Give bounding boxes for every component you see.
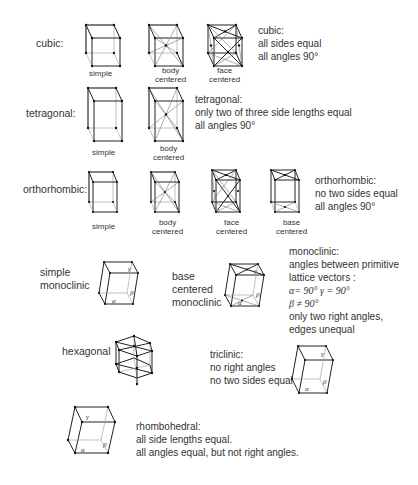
orthorhombic-face-centered-caption: facecentered [216, 218, 247, 236]
tetragonal-body-centered-cell-icon [143, 84, 193, 149]
cubic-face-centered-caption: facecentered [209, 66, 240, 84]
hexagonal-cell-icon [110, 332, 162, 392]
alpha-symbol: α [112, 297, 116, 305]
beta-symbol: β [322, 378, 327, 386]
beta-symbol: β [102, 441, 107, 449]
orthorhombic-simple-caption: simple [92, 222, 115, 231]
beta-symbol: β [129, 289, 134, 297]
orthorhombic-simple-cell-icon [83, 168, 128, 218]
beta-symbol: β [255, 291, 260, 299]
simple-monoclinic-label: simple monoclinic [40, 266, 90, 292]
alpha-symbol: α [81, 446, 85, 454]
cubic-face-centered-cell-icon [202, 20, 252, 70]
monoclinic-description: monoclinic: angles between primitive lat… [289, 245, 399, 336]
gamma-symbol: γ [128, 265, 131, 273]
cubic-simple-cell-icon [80, 20, 130, 70]
tetragonal-label: tetragonal: [26, 107, 76, 120]
orthorhombic-label: orthorhombic: [23, 183, 87, 196]
orthorhombic-body-centered-cell-icon [145, 168, 190, 218]
triclinic-description: triclinic: no right angles no two sides … [210, 348, 293, 387]
tetragonal-body-centered-caption: bodycentered [153, 144, 184, 162]
alpha-symbol: α [305, 385, 309, 393]
gamma-symbol: γ [86, 413, 89, 421]
tetragonal-simple-cell-icon [82, 84, 132, 149]
cubic-label: cubic: [36, 37, 63, 50]
simple-monoclinic-cell-icon: γ β α [96, 258, 146, 310]
triclinic-cell-icon: γ β α [288, 342, 338, 402]
orthorhombic-base-centered-caption: basecentered [276, 218, 307, 236]
orthorhombic-base-centered-cell-icon [265, 166, 310, 218]
gamma-symbol: γ [254, 267, 257, 275]
base-centered-monoclinic-cell-icon: γ β α [222, 260, 272, 312]
base-centered-monoclinic-label: base centered monoclinic [172, 270, 222, 309]
rhombohedral-description: rhombohedral: all side lengths equal. al… [136, 420, 299, 459]
orthorhombic-face-centered-cell-icon [206, 166, 251, 218]
rhombohedral-cell-icon: γ β α [66, 404, 122, 456]
orthorhombic-description: orthorhombic: no two sides equal all ang… [315, 174, 398, 213]
cubic-simple-caption: simple [89, 69, 112, 78]
cubic-body-centered-cell-icon [143, 20, 193, 70]
hexagonal-label: hexagonal [62, 345, 110, 358]
orthorhombic-body-centered-caption: bodycentered [152, 218, 183, 236]
tetragonal-description: tetragonal: only two of three side lengt… [195, 93, 352, 132]
cubic-body-centered-caption: bodycentered [155, 66, 186, 84]
tetragonal-simple-caption: simple [92, 148, 115, 157]
cubic-description: cubic: all sides equal all angles 90° [258, 24, 321, 63]
gamma-symbol: γ [321, 350, 324, 358]
